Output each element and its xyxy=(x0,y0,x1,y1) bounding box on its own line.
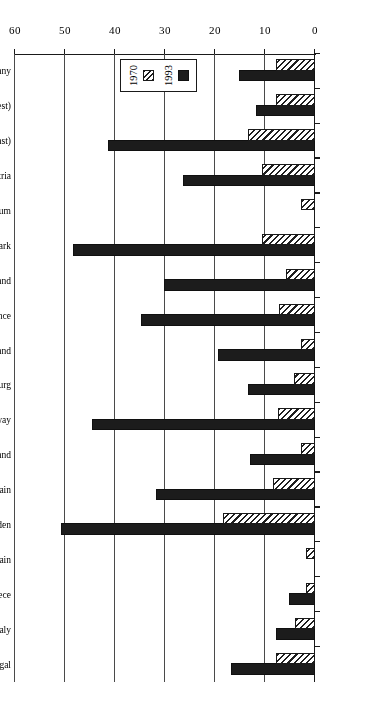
category-tick-mark xyxy=(315,646,320,647)
category-tick-mark xyxy=(315,471,320,472)
bar-1993 xyxy=(164,279,315,291)
category-tick-mark xyxy=(315,297,320,298)
category-tick-mark xyxy=(315,88,320,89)
category-tick-mark xyxy=(315,123,320,124)
bar-1970 xyxy=(248,129,315,141)
category-tick-mark xyxy=(315,262,320,263)
bar-1993 xyxy=(289,593,315,605)
category-label: Portugal xyxy=(0,660,11,670)
bar-1993 xyxy=(218,349,315,361)
category-tick-mark xyxy=(315,332,320,333)
category-tick-mark xyxy=(315,576,320,577)
category-tick-mark xyxy=(315,367,320,368)
bar-1993 xyxy=(92,419,315,431)
bar-1970 xyxy=(286,269,315,281)
legend-label-1970: 1970 xyxy=(128,65,139,86)
category-tick-mark xyxy=(315,227,320,228)
bar-1993 xyxy=(231,663,315,675)
category-label: Belgium xyxy=(0,206,11,216)
bar-1970 xyxy=(279,304,315,316)
bar-1993 xyxy=(250,454,315,466)
bar-1970 xyxy=(306,583,315,595)
category-tick-mark xyxy=(315,192,320,193)
bar-1993 xyxy=(141,314,315,326)
x-tick-label: 30 xyxy=(159,24,171,36)
bar-1993 xyxy=(183,175,315,187)
bar-1970 xyxy=(262,164,315,176)
x-axis-title: Births Outside Marriage Per 100 Births xyxy=(291,0,302,28)
x-tick-label: 50 xyxy=(59,24,71,36)
category-tick-mark xyxy=(315,157,320,158)
bar-1970 xyxy=(294,373,315,385)
category-label: (East) xyxy=(0,136,11,146)
x-axis-line xyxy=(15,54,316,55)
x-tick-label: 20 xyxy=(209,24,221,36)
x-tick-mark xyxy=(14,49,15,54)
category-label: Italy xyxy=(0,625,11,635)
x-tick-label: 60 xyxy=(9,24,21,36)
bar-1993 xyxy=(256,105,315,117)
bar-1970 xyxy=(278,408,315,420)
bar-1970 xyxy=(223,513,315,525)
category-label: Sweden xyxy=(0,520,11,530)
bar-1970 xyxy=(276,94,315,106)
category-tick-mark xyxy=(315,402,320,403)
category-tick-mark xyxy=(315,53,320,54)
bar-1970 xyxy=(262,234,315,246)
legend-item-1993: 1993 xyxy=(163,65,189,86)
category-label: Austria xyxy=(0,171,11,181)
category-label: Norway xyxy=(0,415,11,425)
bar-1970 xyxy=(295,618,315,630)
legend-label-1993: 1993 xyxy=(163,65,174,86)
legend-swatch-hatched-icon xyxy=(143,70,154,81)
category-label: Finland xyxy=(0,276,11,286)
gridline xyxy=(14,54,15,682)
category-label: Ireland xyxy=(0,346,11,356)
rotated-figure: 0102030405060 Germany(West)(East)Austria… xyxy=(0,0,384,708)
x-tick-label: 10 xyxy=(259,24,271,36)
bar-1970 xyxy=(273,478,315,490)
category-tick-mark xyxy=(315,611,320,612)
category-label: Holland xyxy=(0,450,11,460)
category-label: Germany xyxy=(0,66,11,76)
category-label: (West) xyxy=(0,101,11,111)
x-tick-mark xyxy=(164,49,165,54)
x-tick-mark xyxy=(264,49,265,54)
bar-1993 xyxy=(73,244,315,256)
legend-swatch-solid-icon xyxy=(178,70,189,81)
gridline xyxy=(64,54,65,682)
x-tick-mark xyxy=(114,49,115,54)
category-tick-mark xyxy=(315,437,320,438)
x-tick-mark xyxy=(64,49,65,54)
bar-1993 xyxy=(156,489,315,501)
category-tick-mark xyxy=(315,506,320,507)
bar-1970 xyxy=(301,443,315,455)
legend: 1970 1993 xyxy=(120,59,197,92)
category-label: France xyxy=(0,311,11,321)
legend-item-1970: 1970 xyxy=(128,65,154,86)
x-tick-label: 40 xyxy=(109,24,121,36)
x-tick-mark xyxy=(214,49,215,54)
bar-1970 xyxy=(301,199,315,211)
category-tick-mark xyxy=(315,541,320,542)
plot-area: 0102030405060 Germany(West)(East)Austria… xyxy=(15,54,315,682)
bar-1993 xyxy=(239,70,315,82)
category-label: Luxemburg xyxy=(0,380,11,390)
bar-1970 xyxy=(301,339,315,351)
bar-1993 xyxy=(276,628,315,640)
bar-1970 xyxy=(276,653,315,665)
bar-1993 xyxy=(248,384,315,396)
category-label: Greece xyxy=(0,590,11,600)
x-tick-label: 0 xyxy=(312,24,318,36)
category-label: Denmark xyxy=(0,241,11,251)
bar-1993 xyxy=(61,524,315,536)
bar-1993 xyxy=(108,140,315,152)
bar-1970 xyxy=(306,548,315,560)
bar-1970 xyxy=(276,59,315,71)
category-label: Britain xyxy=(0,485,11,495)
category-label: Spain xyxy=(0,555,11,565)
